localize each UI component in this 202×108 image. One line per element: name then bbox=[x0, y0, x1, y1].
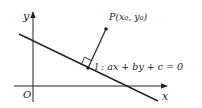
line-equation-label: l : ax + by + c = 0 bbox=[95, 61, 183, 72]
foot-point bbox=[86, 66, 90, 70]
point-line-distance-diagram: y O x P(x₀, y₀) l : ax + by + c = 0 bbox=[0, 0, 202, 108]
point-p bbox=[104, 27, 108, 31]
point-p-label: P(x₀, y₀) bbox=[108, 11, 147, 22]
y-axis-label: y bbox=[22, 10, 30, 23]
x-axis-label: x bbox=[162, 90, 169, 103]
origin-label: O bbox=[23, 89, 31, 100]
